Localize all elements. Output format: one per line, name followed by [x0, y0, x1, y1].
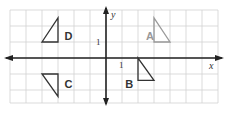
triangle-label-d: D: [64, 30, 72, 42]
coordinate-grid-diagram: y x 1 1 ABCD: [0, 0, 232, 115]
triangle-d: [42, 18, 58, 42]
y-tick-label: 1: [96, 37, 101, 47]
triangle-c: [42, 74, 58, 96]
axes: y x 1 1: [4, 6, 224, 106]
coordinate-plane: y x 1 1 ABCD: [0, 0, 232, 115]
triangle-label-c: C: [64, 78, 72, 90]
x-axis-right-arrow-icon: [215, 55, 224, 61]
y-axis-label: y: [110, 9, 116, 20]
grid-lines: [10, 10, 218, 103]
x-axis-left-arrow-icon: [4, 55, 13, 61]
triangle-label-a: A: [146, 30, 154, 42]
triangle-a: [154, 18, 170, 42]
x-axis-label: x: [208, 60, 214, 71]
triangle-label-b: B: [125, 78, 133, 90]
triangle-b: [138, 58, 154, 80]
y-axis-down-arrow-icon: [103, 98, 109, 106]
x-tick-label: 1: [119, 60, 124, 70]
